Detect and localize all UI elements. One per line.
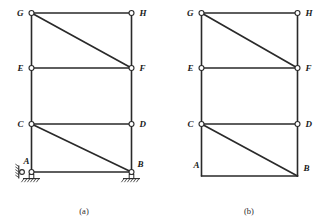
joint-G [29,11,34,16]
node-label-C: C [17,119,24,129]
joint-G [199,11,204,16]
joint-H [295,11,300,16]
joint-B [129,170,134,175]
node-label-G: G [187,8,194,18]
joint-C [199,122,204,127]
structural-frame-figure: GHEFCDAB GHEFCDAB (a) (b) [0,0,321,223]
node-label-H: H [305,8,314,18]
node-label-A: A [22,156,29,166]
joint-D [295,122,300,127]
joint-F [129,66,134,71]
joint-H [129,11,134,16]
node-label-E: E [186,63,193,73]
node-label-H: H [139,8,148,18]
joint-F [295,66,300,71]
caption-panel-a: (a) [79,206,89,216]
node-label-B: B [303,163,310,173]
roller-circle [20,170,25,175]
node-label-A: A [192,160,199,170]
figure-canvas: GHEFCDAB GHEFCDAB (a) (b) [0,0,321,223]
joint-E [199,66,204,71]
node-label-G: G [17,8,24,18]
node-label-C: C [187,119,194,129]
joint-A [29,170,34,175]
joint-C [29,122,34,127]
figure-background [0,0,321,223]
node-label-F: F [305,63,312,73]
node-label-D: D [139,119,147,129]
joint-D [129,122,134,127]
node-label-D: D [305,119,313,129]
joint-E [29,66,34,71]
node-label-F: F [139,63,146,73]
node-label-B: B [137,159,144,169]
caption-panel-b: (b) [244,206,254,216]
node-label-E: E [16,63,23,73]
